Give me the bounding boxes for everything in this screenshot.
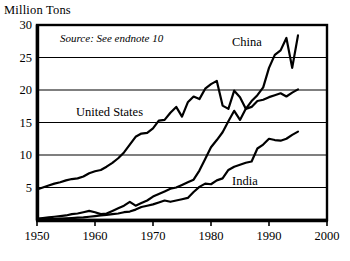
series-label-china: China — [232, 36, 262, 49]
plot-area — [0, 0, 350, 261]
source-note: Source: See endnote 10 — [60, 33, 163, 44]
xtick-label-1990: 1990 — [257, 230, 282, 243]
ytick-label-5: 5 — [2, 182, 32, 195]
xtick-label-1950: 1950 — [25, 230, 50, 243]
xtick-label-1970: 1970 — [141, 230, 166, 243]
xtick-label-1960: 1960 — [83, 230, 108, 243]
ytick-label-15: 15 — [2, 117, 32, 130]
series-label-united-states: United States — [76, 106, 143, 119]
series-label-india: India — [232, 175, 258, 188]
ytick-label-20: 20 — [2, 84, 32, 97]
xtick-label-2000: 2000 — [315, 230, 340, 243]
chart-figure: Million Tons — [0, 0, 350, 261]
ytick-label-30: 30 — [2, 19, 32, 32]
ytick-label-25: 25 — [2, 52, 32, 65]
xtick-label-1980: 1980 — [199, 230, 224, 243]
ytick-label-10: 10 — [2, 149, 32, 162]
